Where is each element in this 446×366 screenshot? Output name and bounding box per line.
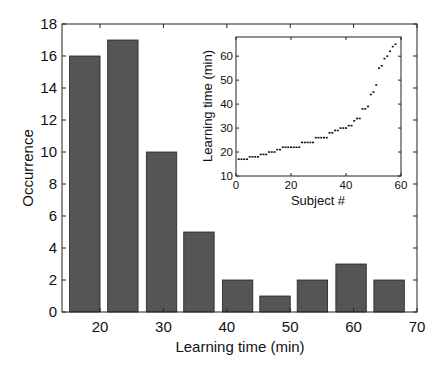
inset-x-axis-label: Subject # (291, 193, 346, 208)
data-point (386, 55, 388, 57)
y-tick-label: 0 (49, 303, 57, 320)
data-point (301, 142, 303, 144)
data-point (307, 142, 309, 144)
data-point (326, 137, 328, 139)
histogram-bar (146, 152, 176, 312)
y-tick-label: 8 (49, 175, 57, 192)
data-point (356, 118, 358, 120)
data-point (389, 51, 391, 53)
data-point (293, 146, 295, 148)
data-point (367, 106, 369, 108)
data-point (282, 146, 284, 148)
data-point (323, 137, 325, 139)
data-point (279, 149, 281, 151)
inset-y-tick-label: 40 (220, 98, 233, 110)
main-y-axis-label: Occurrence (19, 129, 36, 207)
data-point (257, 156, 259, 158)
data-point (348, 125, 350, 127)
data-point (353, 120, 355, 122)
data-point (249, 156, 251, 158)
data-point (320, 137, 322, 139)
data-point (373, 91, 375, 93)
data-point (252, 156, 254, 158)
data-point (274, 151, 276, 153)
data-point (334, 130, 336, 132)
data-point (364, 108, 366, 110)
y-tick-label: 2 (49, 271, 57, 288)
histogram-bar (260, 296, 290, 312)
histogram-bar (222, 280, 252, 312)
x-tick-label: 30 (155, 318, 172, 335)
data-point (263, 154, 265, 156)
data-point (359, 118, 361, 120)
inset-y-axis-label: Learning time (min) (200, 50, 215, 162)
y-tick-label: 12 (40, 111, 57, 128)
inset-y-tick-label: 60 (220, 50, 233, 62)
y-tick-label: 16 (40, 47, 57, 64)
data-point (268, 151, 270, 153)
histogram-bar (374, 280, 404, 312)
y-tick-label: 18 (40, 15, 57, 32)
data-point (298, 146, 300, 148)
data-point (312, 142, 314, 144)
data-point (318, 137, 320, 139)
x-tick-label: 20 (92, 318, 109, 335)
histogram-bar (108, 40, 138, 312)
y-tick-label: 14 (40, 79, 57, 96)
data-point (337, 130, 339, 132)
inset-x-tick-label: 60 (395, 179, 408, 191)
data-point (271, 151, 273, 153)
histogram-bar (70, 56, 100, 312)
histogram-bar (297, 280, 327, 312)
data-point (331, 132, 333, 134)
data-point (285, 146, 287, 148)
data-point (370, 94, 372, 96)
data-point (276, 149, 278, 151)
data-point (296, 146, 298, 148)
y-tick-label: 10 (40, 143, 57, 160)
data-point (246, 158, 248, 160)
data-point (351, 125, 353, 127)
data-point (345, 127, 347, 129)
main-x-axis-label: Learning time (min) (175, 338, 304, 355)
data-point (384, 58, 386, 60)
data-point (304, 142, 306, 144)
data-point (362, 108, 364, 110)
x-tick-label: 40 (218, 318, 235, 335)
data-point (238, 158, 240, 160)
chart-canvas: 203040506070024681012141618 Learning tim… (0, 0, 446, 366)
inset-x-tick-label: 40 (340, 179, 353, 191)
data-point (392, 46, 394, 48)
x-tick-label: 50 (282, 318, 299, 335)
data-point (254, 156, 256, 158)
histogram-bar (336, 264, 366, 312)
inset-y-tick-label: 50 (220, 74, 233, 86)
data-point (287, 146, 289, 148)
data-point (243, 158, 245, 160)
inset-y-tick-label: 30 (220, 122, 233, 134)
data-point (309, 142, 311, 144)
y-tick-label: 6 (49, 207, 57, 224)
data-point (329, 132, 331, 134)
histogram-bar (184, 232, 214, 312)
data-point (340, 127, 342, 129)
data-point (375, 84, 377, 86)
data-point (265, 154, 267, 156)
data-point (241, 158, 243, 160)
data-point (378, 67, 380, 69)
x-tick-label: 70 (409, 318, 426, 335)
data-point (381, 65, 383, 67)
data-point (315, 137, 317, 139)
data-point (395, 43, 397, 45)
inset-y-tick-label: 10 (220, 170, 233, 182)
inset-x-tick-label: 20 (285, 179, 298, 191)
data-point (290, 146, 292, 148)
x-tick-label: 60 (345, 318, 362, 335)
inset-scatter-plot: 0204060102030405060 Subject # Learning t… (200, 37, 407, 208)
data-point (260, 154, 262, 156)
y-tick-label: 4 (49, 239, 57, 256)
inset-y-tick-label: 20 (220, 146, 233, 158)
inset-x-tick-label: 0 (233, 179, 239, 191)
data-point (342, 127, 344, 129)
